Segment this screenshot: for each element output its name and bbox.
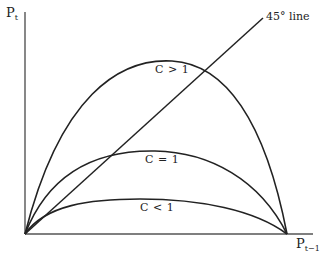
curve-low-label: C < 1 [140, 201, 174, 214]
x-axis-label-main: P [296, 236, 305, 251]
y-axis-label-sub: t [15, 13, 18, 22]
curve-mid-label: C = 1 [145, 153, 179, 166]
diagram-canvas: Pt Pt−1 45° line C > 1 C = 1 C < 1 [0, 0, 328, 261]
y-axis-label: Pt [6, 5, 18, 22]
x-axis-label-sub: t−1 [305, 244, 320, 253]
y-axis-label-main: P [6, 5, 15, 20]
curve-high-label: C > 1 [155, 63, 189, 76]
phase-diagram [0, 0, 328, 261]
diagonal-label: 45° line [266, 10, 310, 23]
x-axis-label: Pt−1 [296, 236, 320, 253]
